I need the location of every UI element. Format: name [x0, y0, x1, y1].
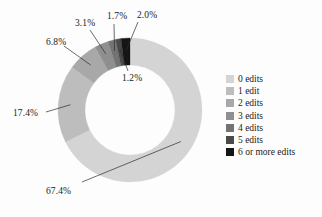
- legend-item-2-edits[interactable]: 2 edits: [226, 97, 320, 109]
- callout-17-4: 17.4%: [13, 108, 38, 118]
- legend-item-6-or-more-edits[interactable]: 6 or more edits: [226, 146, 320, 158]
- callout-67-4: 67.4%: [46, 186, 71, 196]
- legend-swatch-icon: [226, 136, 234, 144]
- legend-swatch-icon: [226, 75, 234, 83]
- callout-1-2: 1.2%: [122, 73, 142, 83]
- callout-2-0: 2.0%: [137, 10, 157, 20]
- legend-swatch-icon: [226, 124, 234, 132]
- legend-swatch-icon: [226, 112, 234, 120]
- legend-item-0-edits[interactable]: 0 edits: [226, 73, 320, 85]
- donut-slices: [58, 38, 202, 182]
- chart-legend: 0 edits1 edit2 edits3 edits4 edits5 edit…: [226, 73, 320, 158]
- callout-6-8: 6.8%: [46, 37, 66, 47]
- legend-swatch-icon: [226, 99, 234, 107]
- callout-3-1: 3.1%: [75, 18, 95, 28]
- legend-item-4-edits[interactable]: 4 edits: [226, 122, 320, 134]
- legend-item-5-edits[interactable]: 5 edits: [226, 134, 320, 146]
- legend-label: 3 edits: [238, 110, 263, 122]
- legend-item-3-edits[interactable]: 3 edits: [226, 110, 320, 122]
- legend-swatch-icon: [226, 148, 234, 156]
- legend-item-1-edit[interactable]: 1 edit: [226, 85, 320, 97]
- legend-label: 2 edits: [238, 97, 263, 109]
- legend-label: 4 edits: [238, 122, 263, 134]
- legend-label: 0 edits: [238, 73, 263, 85]
- chart-figure: 67.4%17.4%6.8%3.1%1.7%2.0%1.2% 0 edits1 …: [0, 0, 322, 217]
- legend-label: 1 edit: [238, 85, 259, 97]
- legend-label: 5 edits: [238, 134, 263, 146]
- legend-swatch-icon: [226, 87, 234, 95]
- callout-1-7: 1.7%: [107, 11, 127, 21]
- legend-label: 6 or more edits: [238, 146, 295, 158]
